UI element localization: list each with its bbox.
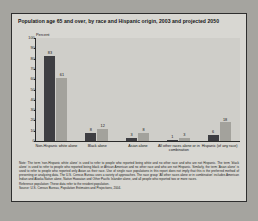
bar-value-label: 6 xyxy=(208,130,219,134)
screenshot-page: Population age 65 and over, by race and … xyxy=(0,0,258,221)
chart-title: Population age 65 and over, by race and … xyxy=(18,18,240,24)
x-axis-category-label: Hispanic (of any race) xyxy=(194,144,246,148)
bar-2050: 8 xyxy=(138,133,149,141)
bar-group: 812Black alone xyxy=(85,38,109,141)
bar-2003: 1 xyxy=(167,140,178,141)
bar-value-label: 61 xyxy=(56,73,67,77)
bar-2050: 3 xyxy=(179,138,190,141)
bar-2003: 3 xyxy=(126,138,137,141)
bar-value-label: 3 xyxy=(126,133,137,137)
y-axis-tick-mark xyxy=(34,48,37,49)
y-axis-tick-mark xyxy=(34,38,37,39)
y-axis-tick-mark xyxy=(34,120,37,121)
chart-figure: Population age 65 and over, by race and … xyxy=(11,13,247,202)
note-text: Note: The term ‘non-Hispanic white alone… xyxy=(19,162,239,182)
bar-value-label: 12 xyxy=(97,124,108,128)
bar-group: 38Asian alone xyxy=(126,38,150,141)
y-axis-tick-mark xyxy=(34,110,37,111)
y-axis-tick-mark xyxy=(34,100,37,101)
bar-2050: 61 xyxy=(56,78,67,141)
y-axis-tick-mark xyxy=(34,90,37,91)
bar-2050: 12 xyxy=(97,129,108,141)
y-axis-tick-mark xyxy=(34,79,37,80)
bar-2003: 83 xyxy=(44,56,55,141)
bar-value-label: 18 xyxy=(220,118,231,122)
chart-notes: Note: The term ‘non-Hispanic white alone… xyxy=(19,162,239,190)
bar-group: 13All other races alone or in combinatio… xyxy=(167,38,191,141)
plot-area: 01020304050607080901008361Non-Hispanic w… xyxy=(35,38,240,142)
y-axis-tick-mark xyxy=(34,69,37,70)
bar-value-label: 83 xyxy=(44,51,55,55)
source-text: Source: U.S. Census Bureau, Population E… xyxy=(19,186,239,190)
bar-value-label: 1 xyxy=(167,135,178,139)
y-axis-tick-mark xyxy=(34,141,37,142)
bar-group: 618Hispanic (of any race) xyxy=(208,38,232,141)
reference-population-text: Reference population: These data refer t… xyxy=(19,182,239,186)
y-axis-tick-mark xyxy=(34,59,37,60)
bar-value-label: 3 xyxy=(179,133,190,137)
bar-value-label: 8 xyxy=(85,128,96,132)
y-axis-unit-label: Percent xyxy=(36,32,49,37)
bar-2003: 8 xyxy=(85,133,96,141)
bar-group: 8361Non-Hispanic white alone xyxy=(44,38,68,141)
bar-2050: 18 xyxy=(220,122,231,141)
bar-value-label: 8 xyxy=(138,128,149,132)
bar-2003: 6 xyxy=(208,135,219,141)
y-axis-tick-mark xyxy=(34,131,37,132)
